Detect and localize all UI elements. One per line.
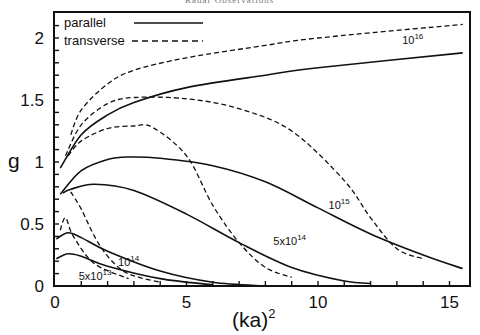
plot-curves [56,24,462,286]
line-chart: 051015 00.511.52 g (ka)2 parallel transv… [0,0,480,335]
curve-label-base: 10 [402,34,414,46]
curve-label-exponent: 14 [297,233,306,242]
curve-label-exponent: 14 [130,254,139,263]
curve-label-base: 5x10 [79,270,103,282]
x-axis-title-exp: 2 [268,306,275,321]
curve-label: 1015 [329,197,351,211]
series-line-5 [68,125,292,278]
y-axis-title: g [8,149,20,172]
x-tick-label: 5 [182,293,191,312]
curve-label-exponent: 13 [103,268,112,277]
curve-label-base: 5x10 [273,235,297,247]
curve-label-exponent: 15 [341,197,350,206]
curve-label-exponent: 16 [414,32,423,41]
y-tick-label: 2 [35,29,44,48]
x-axis-title: (ka)2 [232,306,275,331]
x-axis-title-base: (ka) [232,308,268,331]
x-tick-label: 10 [309,293,328,312]
curve-label-base: 10 [118,256,130,268]
legend-label-transverse: transverse [64,33,125,48]
series-line-3 [66,97,424,259]
curve-label-base: 10 [329,199,341,211]
y-tick-label: 1 [35,153,44,172]
y-tick-label: 1.5 [20,91,44,110]
x-tick-label: 0 [50,293,59,312]
curve-label: 5x1013 [79,268,112,282]
legend: parallel transverse [64,15,203,48]
plot-frame [54,12,470,286]
series-line-0 [60,53,462,168]
legend-label-parallel: parallel [64,15,106,30]
y-tick-label: 0.5 [20,215,44,234]
curve-label: 1014 [118,254,140,268]
y-tick-label: 0 [35,277,44,296]
x-tick-label: 15 [440,293,459,312]
curve-label: 1016 [402,32,424,46]
curve-label: 5x1014 [273,233,306,247]
